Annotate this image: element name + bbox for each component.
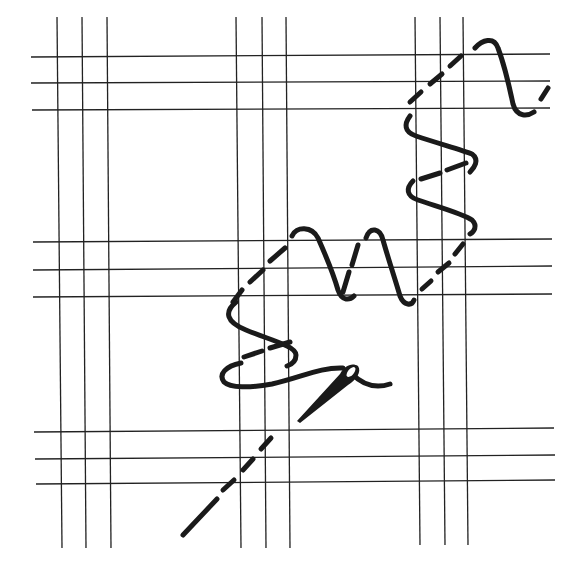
grid-vertical-line <box>440 17 445 545</box>
fabric-grid <box>31 17 555 548</box>
grid-vertical-line <box>57 17 62 548</box>
grid-vertical-line <box>262 17 266 548</box>
grid-horizontal-line <box>33 266 552 270</box>
needle-icon <box>183 364 359 535</box>
thread-stitch <box>222 40 534 386</box>
grid-vertical-line <box>82 17 86 548</box>
grid-vertical-line <box>236 17 241 548</box>
grid-horizontal-line <box>31 54 550 57</box>
grid-vertical-line <box>286 17 290 548</box>
grid-horizontal-line <box>33 294 552 297</box>
dashed-back-stitches <box>223 56 548 490</box>
grid-vertical-line <box>463 17 468 545</box>
stitch-diagram <box>0 0 573 575</box>
grid-horizontal-line <box>33 239 552 242</box>
grid-horizontal-line <box>31 81 550 83</box>
grid-horizontal-line <box>35 455 555 459</box>
grid-horizontal-line <box>32 108 550 110</box>
grid-horizontal-line <box>34 428 554 432</box>
grid-horizontal-line <box>36 480 555 484</box>
grid-vertical-line <box>107 17 111 548</box>
